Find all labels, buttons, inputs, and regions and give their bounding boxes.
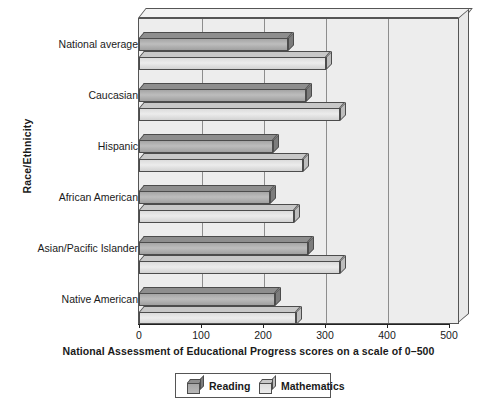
x-axis-line [138, 324, 449, 325]
cube-icon [259, 379, 274, 394]
x-tick-300 [325, 324, 326, 328]
legend-label: Reading [209, 380, 250, 392]
bar-front-face [139, 261, 340, 274]
bar-front-face [139, 242, 308, 255]
x-axis-tick-label: 100 [181, 329, 221, 341]
bar-mathematics-african-american[interactable] [139, 204, 294, 217]
x-axis-tick-label: 500 [429, 329, 469, 341]
bar-front-face [139, 191, 270, 204]
y-axis-tick-labels: National average Caucasian Hispanic Afri… [10, 16, 138, 323]
bar-front-face [139, 293, 275, 306]
y-axis-tick-label: Native American [10, 293, 138, 305]
bar-front-face [139, 312, 296, 324]
y-axis-tick-label: National average [10, 38, 138, 50]
bar-mathematics-national-average[interactable] [139, 51, 326, 64]
x-axis-tick-label: 400 [367, 329, 407, 341]
bar-front-face [139, 108, 340, 121]
legend-label: Mathematics [281, 380, 345, 392]
plot-area [138, 8, 472, 323]
bar-reading-native-american[interactable] [139, 287, 275, 300]
plot-right-face [458, 9, 469, 323]
bar-front-face [139, 210, 294, 223]
cube-icon [187, 379, 202, 394]
bar-reading-asian-pacific-islander[interactable] [139, 236, 308, 249]
y-axis-tick-label: Asian/Pacific Islander [10, 242, 138, 254]
bar-side-face [294, 204, 300, 223]
legend: Reading Mathematics [175, 373, 331, 398]
bar-reading-caucasian[interactable] [139, 83, 306, 96]
x-tick-200 [263, 324, 264, 328]
x-axis-tick-label: 300 [305, 329, 345, 341]
bars-layer [139, 19, 458, 323]
x-axis-tick-labels: 0 100 200 300 400 500 [0, 329, 497, 343]
y-axis-tick-label: Caucasian [10, 89, 138, 101]
bar-reading-national-average[interactable] [139, 32, 288, 45]
y-axis-tick-label: Hispanic [10, 140, 138, 152]
bar-mathematics-asian-pacific-islander[interactable] [139, 255, 340, 268]
bar-reading-hispanic[interactable] [139, 134, 273, 147]
bar-reading-african-american[interactable] [139, 185, 270, 198]
bar-chart: Race/Ethnicity National average Caucasia… [0, 0, 497, 409]
plot-front-face [138, 18, 459, 324]
x-tick-400 [387, 324, 388, 328]
bar-mathematics-native-american[interactable] [139, 306, 296, 319]
x-tick-0 [139, 324, 140, 328]
x-axis-tick-label: 0 [119, 329, 159, 341]
x-tick-500 [449, 324, 450, 328]
bar-mathematics-hispanic[interactable] [139, 153, 303, 166]
x-tick-100 [201, 324, 202, 328]
bar-mathematics-caucasian[interactable] [139, 102, 340, 115]
bar-front-face [139, 159, 303, 172]
plot-top-face [138, 8, 473, 18]
bar-front-face [139, 57, 326, 70]
x-axis-tick-label: 200 [243, 329, 283, 341]
bar-front-face [139, 89, 306, 102]
y-axis-tick-label: African American [10, 191, 138, 203]
x-axis-title: National Assessment of Educational Progr… [0, 345, 497, 357]
bar-front-face [139, 140, 273, 153]
bar-front-face [139, 38, 288, 51]
